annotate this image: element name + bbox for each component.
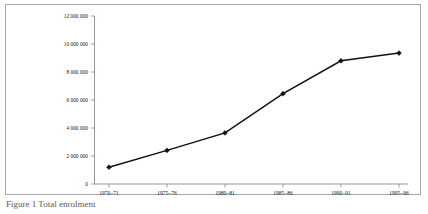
y-tick-label: 6 000 000 [66,97,88,103]
x-tick-label: 1970–71 [99,190,119,196]
x-tick-label: 1990–91 [331,190,351,196]
x-axis-ticks [109,184,399,188]
y-tick-label: 8 000 000 [66,69,88,75]
x-axis-labels: 1970–71 1975–76 1980–81 1985–86 1990–91 … [99,190,409,196]
data-point-marker [107,165,112,170]
series-line-enrolment [109,53,399,167]
series-markers [107,51,402,170]
y-tick-label: 12 000 000 [64,13,89,19]
y-axis-labels: 12 000 000 10 000 000 8 000 000 6 000 00… [64,13,89,187]
x-tick-label: 1980–81 [215,190,235,196]
line-chart: 12 000 000 10 000 000 8 000 000 6 000 00… [6,5,422,196]
figure-frame: 12 000 000 10 000 000 8 000 000 6 000 00… [5,4,421,195]
y-axis-ticks [91,16,95,184]
chart-plot-area: 12 000 000 10 000 000 8 000 000 6 000 00… [6,5,422,196]
figure-caption: Figure 1 Total enrolment [6,198,422,214]
y-tick-label: 2 000 000 [66,153,88,159]
y-tick-label: 10 000 000 [64,41,89,47]
x-tick-label: 1995–96 [389,190,409,196]
data-point-marker [165,148,170,153]
y-tick-label: 0 [85,181,88,187]
data-point-marker [397,51,402,56]
x-tick-label: 1985–86 [273,190,293,196]
x-tick-label: 1975–76 [157,190,177,196]
y-tick-label: 4 000 000 [66,125,88,131]
